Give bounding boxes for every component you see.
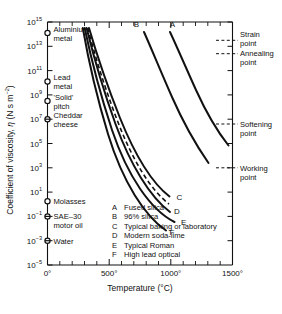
legend-key-D: D [112, 231, 118, 240]
material-label-sae-30-line2: motor oil [54, 221, 83, 230]
curve-label-D: D [174, 207, 180, 216]
legend-label-E: Typical Roman [124, 241, 174, 250]
open-circle-icon [45, 199, 50, 204]
annotation-annealing-point-line2: point [240, 58, 257, 67]
legend-key-F: F [112, 250, 117, 259]
legend-label-F: High lead optical [124, 250, 180, 259]
material-label-water-line1: Water [54, 237, 74, 246]
material-label-sae-30-line1: SAE–30 [54, 212, 82, 221]
annotation-strain-point-line2: point [240, 39, 257, 48]
open-circle-icon [45, 98, 50, 103]
legend-label-C: Typical baking or laboratory [124, 222, 217, 231]
annotation-softening-point-line1: Softening [240, 120, 272, 129]
annotation-working-point-line1: Working [240, 164, 268, 173]
material-label-cheddar-cheese-line2: cheese [54, 120, 79, 129]
x-tick-label-500: 500° [101, 269, 118, 278]
curve-label-B: B [134, 20, 139, 29]
annotation-softening-point-line2: point [240, 129, 257, 138]
open-circle-icon [45, 79, 50, 84]
material-label-lead-metal-line2: metal [54, 82, 73, 91]
open-circle-icon [45, 30, 50, 35]
material-label-aluminium-metal-line2: metal [54, 34, 73, 43]
chart-svg: 1015 1013 1011 109 107 105 103 101 10−1 … [0, 0, 282, 314]
material-label-solid-pitch-line2: pitch [54, 102, 70, 111]
x-tick-label-0: 0° [44, 269, 52, 278]
material-label-lead-metal-line1: Lead [54, 73, 71, 82]
legend-key-E: E [112, 241, 117, 250]
legend-label-A: Fused silica [124, 203, 165, 212]
viscosity-temperature-figure: 1015 1013 1011 109 107 105 103 101 10−1 … [0, 0, 282, 314]
material-label-cheddar-cheese-line1: Cheddar [54, 111, 84, 120]
legend-label-D: Modern soda-lime [124, 231, 185, 240]
material-label-molasses-line1: Molasses [54, 197, 86, 206]
annotation-strain-point-line1: Strain [240, 30, 260, 39]
curve-label-A: A [170, 20, 176, 29]
x-tick-label-1500: 1500° [222, 269, 243, 278]
x-tick-label-1000: 1000° [160, 269, 181, 278]
material-label-solid-pitch-line1: 'Solid' [54, 93, 74, 102]
curve-label-C: C [177, 193, 183, 202]
legend-key-C: C [112, 222, 118, 231]
annotation-annealing-point-line1: Annealing [240, 49, 274, 58]
annotation-working-point-line2: point [240, 173, 257, 182]
legend-key-B: B [112, 212, 117, 221]
x-axis-title: Temperature (°C) [107, 283, 172, 293]
legend-label-B: 96% silica [124, 212, 159, 221]
y-axis-title: Coefficient of viscosity, η (N s m−2) [4, 85, 15, 215]
